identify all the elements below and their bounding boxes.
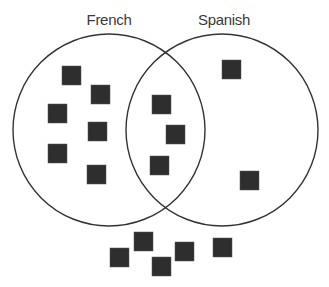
set-circles <box>13 34 318 226</box>
french-set-label: French <box>87 11 132 28</box>
venn-diagram: FrenchSpanish <box>0 0 329 287</box>
item-square-spanish-only <box>222 60 241 79</box>
item-square-neither <box>110 248 129 267</box>
set-labels: FrenchSpanish <box>87 11 251 28</box>
item-square-neither <box>213 238 232 257</box>
item-square-french-only <box>88 122 107 141</box>
item-square-spanish-only <box>240 171 259 190</box>
item-square-french-only <box>62 66 81 85</box>
item-square-french-only <box>91 85 110 104</box>
item-square-french-only <box>48 144 67 163</box>
item-square-neither <box>175 242 194 261</box>
item-square-both <box>152 95 171 114</box>
item-square-both <box>150 156 169 175</box>
spanish-set-label: Spanish <box>198 11 250 28</box>
item-square-neither <box>134 232 153 251</box>
item-square-neither <box>152 257 171 276</box>
item-square-french-only <box>48 104 67 123</box>
item-square-both <box>166 125 185 144</box>
set-items <box>48 60 259 276</box>
item-square-french-only <box>87 165 106 184</box>
